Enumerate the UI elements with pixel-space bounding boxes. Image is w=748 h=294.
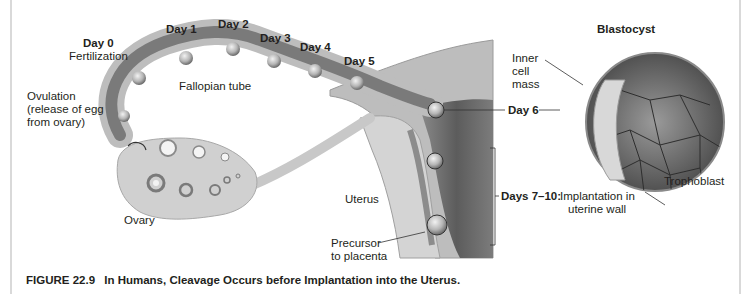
- figure-number: FIGURE 22.9: [26, 274, 95, 286]
- ovary-shape: [117, 138, 257, 219]
- label-day2: Day 2: [218, 18, 249, 31]
- embryo-day2: [226, 42, 240, 56]
- label-ovulation: Ovulation: [27, 90, 76, 103]
- figure-title: In Humans, Cleavage Occurs before Implan…: [104, 274, 460, 286]
- label-day1: Day 1: [166, 23, 197, 36]
- label-inner-cell-mass: Inner: [512, 52, 538, 65]
- label-uterus: Uterus: [345, 193, 379, 206]
- embryo-day4: [308, 64, 322, 78]
- embryo-implanting: [427, 153, 443, 169]
- label-ovulation-line3: from ovary): [27, 116, 85, 129]
- label-precursor: Precursor: [331, 237, 381, 250]
- embryo-day0: [132, 71, 146, 85]
- label-fertilization: Fertilization: [69, 50, 128, 63]
- label-precursor-line2: to placenta: [331, 250, 387, 263]
- label-blastocyst: Blastocyst: [597, 23, 655, 36]
- label-inner-cell-mass-line3: mass: [512, 78, 539, 91]
- label-implantation-line2: uterine wall: [568, 203, 626, 216]
- label-ovary: Ovary: [124, 214, 155, 227]
- label-day4: Day 4: [300, 41, 331, 54]
- embryo-ovulated-egg: [118, 110, 130, 122]
- label-trophoblast: Trophoblast: [664, 175, 724, 188]
- label-ovulation-line2: (release of egg: [27, 103, 104, 116]
- label-implantation: Implantation in: [560, 190, 635, 203]
- embryo-day1: [179, 51, 193, 65]
- ovarian-ligament: [240, 118, 370, 190]
- embryo-day6: [428, 102, 444, 118]
- label-days-7-10: Days 7–10:: [501, 190, 561, 203]
- embryo-day5: [350, 76, 364, 90]
- label-day0: Day 0: [83, 37, 114, 50]
- label-fallopian-tube: Fallopian tube: [179, 80, 251, 93]
- embryo-implanted: [427, 215, 447, 235]
- label-day5: Day 5: [344, 55, 375, 68]
- label-day6: Day 6: [508, 104, 539, 117]
- label-inner-cell-mass-line2: cell: [512, 65, 529, 78]
- label-day3: Day 3: [260, 32, 291, 45]
- figure-caption: FIGURE 22.9 In Humans, Cleavage Occurs b…: [26, 274, 460, 286]
- embryo-day3: [267, 54, 281, 68]
